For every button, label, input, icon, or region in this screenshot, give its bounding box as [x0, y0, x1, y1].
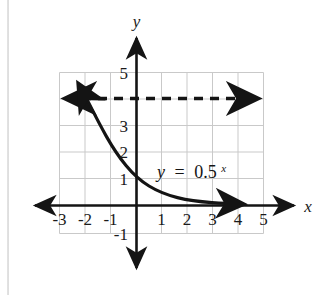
y-tick-label: 3: [120, 117, 129, 136]
x-axis-label: x: [303, 197, 312, 216]
exponential-decay-curve: [79, 84, 243, 204]
y-tick-label: 1: [120, 170, 129, 189]
coordinate-plane-svg: -3 -2 -1 1 2 3 4 5 5 3 2 1 -1 y x y = 0.…: [0, 0, 329, 295]
equation-exponent: x: [220, 162, 226, 174]
x-tick-label: 2: [183, 210, 192, 229]
y-tick-label: -1: [114, 225, 128, 244]
x-tick-labels: -3 -2 -1 1 2 3 4 5: [52, 210, 267, 229]
equation-y: y: [155, 162, 165, 182]
y-tick-label: 2: [120, 143, 129, 162]
x-tick-label: 1: [157, 210, 166, 229]
x-tick-label: -3: [52, 210, 66, 229]
x-tick-label: 5: [259, 210, 268, 229]
x-tick-label: 4: [234, 210, 243, 229]
graph-figure: -3 -2 -1 1 2 3 4 5 5 3 2 1 -1 y x y = 0.…: [0, 0, 329, 295]
equation-equals: =: [175, 162, 185, 182]
y-axis-label: y: [131, 12, 141, 31]
x-tick-label: -2: [78, 210, 92, 229]
y-tick-label: 5: [120, 64, 129, 83]
equation-base: 0.5: [194, 162, 217, 182]
x-tick-label: 3: [208, 210, 217, 229]
